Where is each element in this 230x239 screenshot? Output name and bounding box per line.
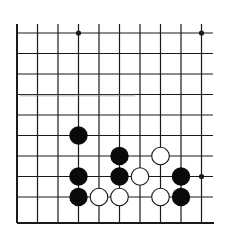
white-stone-icon[interactable] bbox=[111, 188, 129, 206]
white-stone-icon[interactable] bbox=[90, 188, 108, 206]
stones-layer bbox=[69, 126, 190, 206]
black-stone-icon[interactable] bbox=[69, 126, 87, 144]
star-point-icon bbox=[199, 174, 204, 179]
black-stone-icon[interactable] bbox=[172, 167, 190, 185]
white-stone-icon[interactable] bbox=[131, 168, 149, 186]
white-stone-icon[interactable] bbox=[152, 147, 170, 165]
white-stone-icon[interactable] bbox=[152, 188, 170, 206]
black-stone-icon[interactable] bbox=[110, 167, 128, 185]
star-point-icon bbox=[199, 30, 204, 35]
star-point-icon bbox=[76, 30, 81, 35]
black-stone-icon[interactable] bbox=[172, 188, 190, 206]
black-stone-icon[interactable] bbox=[69, 188, 87, 206]
black-stone-icon[interactable] bbox=[110, 147, 128, 165]
go-board bbox=[0, 0, 230, 239]
black-stone-icon[interactable] bbox=[69, 167, 87, 185]
